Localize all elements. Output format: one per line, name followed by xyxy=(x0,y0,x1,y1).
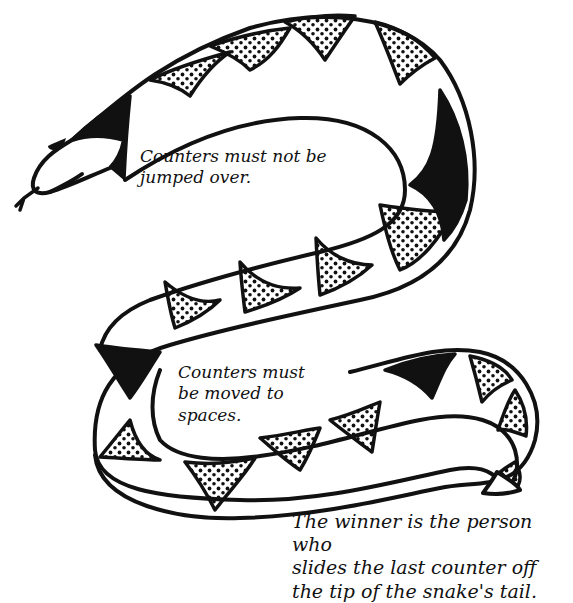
dotted-cell xyxy=(185,458,255,510)
dotted-cell xyxy=(285,15,355,60)
forked-tongue xyxy=(16,188,38,210)
snake-head xyxy=(33,136,124,193)
dotted-cell xyxy=(165,282,220,328)
dotted-cell xyxy=(150,52,230,96)
dotted-cell xyxy=(260,428,320,470)
dotted-cell xyxy=(100,420,160,460)
dotted-cell xyxy=(210,28,290,70)
caption-rule-no-jump: Counters must not be jumped over. xyxy=(140,146,380,189)
caption-rule-move-to-spaces: Counters must be moved to spaces. xyxy=(178,362,338,426)
dotted-cell xyxy=(498,390,527,436)
dotted-cell xyxy=(240,262,300,312)
caption-rule-winner: The winner is the person who slides the … xyxy=(292,510,572,603)
